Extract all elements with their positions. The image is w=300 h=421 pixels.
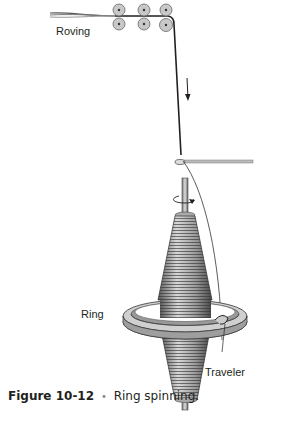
spindle: [182, 178, 188, 214]
caption-text: Ring spinning.: [114, 389, 200, 403]
traveler-label: Traveler: [205, 366, 245, 378]
direction-arrow-icon: [185, 78, 191, 101]
roving-fibers: [50, 13, 115, 17]
ring: [123, 298, 247, 339]
figure-number: Figure 10-12: [8, 389, 94, 403]
roving-label: Roving: [56, 25, 90, 37]
drafting-rollers: [113, 4, 173, 32]
caption-separator: •: [101, 391, 107, 402]
ring-spinning-diagram: [0, 0, 300, 421]
figure-caption: Figure 10-12 • Ring spinning.: [8, 389, 199, 403]
ring-label: Ring: [81, 308, 104, 320]
yarn-path: [115, 16, 181, 155]
thread-guide: [175, 160, 253, 165]
